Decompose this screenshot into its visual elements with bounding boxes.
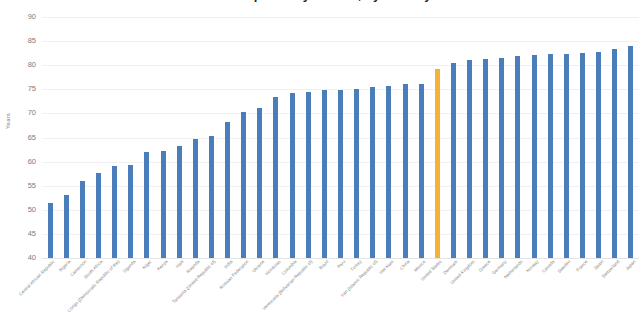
- x-axis-category-label: India: [223, 259, 233, 269]
- x-axis-category-label: Canada: [541, 259, 556, 274]
- x-axis-category-label: Niger: [141, 259, 152, 270]
- x-axis-category-label: Sweden: [557, 259, 572, 274]
- x-axis-category-label: Japan: [624, 259, 636, 271]
- x-axis-category-label: Nigeria: [58, 259, 72, 273]
- x-axis-category-label: Russian Federation: [218, 259, 249, 290]
- y-axis-tick-label: 80: [6, 61, 36, 69]
- x-axis-category-labels: Central African RepublicNigeriaCameroonS…: [42, 259, 639, 334]
- y-axis-tick-label: 60: [6, 158, 36, 166]
- x-axis-category-label: Spain: [593, 259, 605, 271]
- x-axis-category-label: Turkey: [349, 259, 362, 272]
- x-axis-category-label: Viet Nam: [378, 259, 395, 276]
- x-axis-category-label: Norway: [525, 259, 539, 273]
- x-axis-category-label: Kenya: [156, 259, 169, 272]
- y-axis-tick-label: 90: [6, 13, 36, 21]
- y-axis-tick-labels: 4045505560657075808590: [42, 17, 639, 258]
- y-axis-tick-label: 75: [6, 85, 36, 93]
- y-axis-tick-label: 45: [6, 230, 36, 238]
- x-axis-category-label: Mexico: [413, 259, 427, 273]
- y-axis-tick-label: 70: [6, 109, 36, 117]
- x-axis-category-label: Greece: [477, 259, 491, 273]
- x-axis-category-label: Haiti: [175, 259, 185, 269]
- y-axis-tick-label: 85: [6, 37, 36, 45]
- x-axis-category-label: France: [575, 259, 588, 272]
- y-axis-tick-label: 65: [6, 134, 36, 142]
- y-axis-tick-label: 55: [6, 182, 36, 190]
- x-axis-category-label: Uganda: [122, 259, 137, 274]
- x-axis-category-label: Honduras: [264, 259, 281, 276]
- x-axis-category-label: Central African Republic: [18, 259, 56, 297]
- y-axis-tick-label: 40: [6, 254, 36, 262]
- x-axis-category-label: Ukraine: [251, 259, 265, 273]
- x-axis-category-label: Peru: [336, 259, 346, 269]
- y-axis-tick-label: 50: [6, 206, 36, 214]
- x-axis-category-label: Brazil: [318, 259, 330, 271]
- x-axis-category-label: China: [399, 259, 411, 271]
- life-expectancy-bar-chart: Life expectancy at birth, by country Yea…: [0, 0, 644, 334]
- chart-title: Life expectancy at birth, by country: [0, 0, 644, 2]
